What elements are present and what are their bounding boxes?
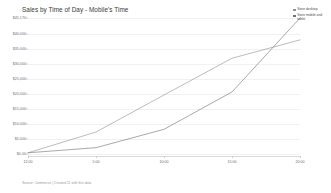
series-line xyxy=(28,18,300,153)
y-axis-tick-mark xyxy=(26,33,28,34)
gridline xyxy=(28,154,300,155)
series-line xyxy=(28,40,300,153)
x-axis-tick-labels: 12:005:0010:0015:0020:00 xyxy=(28,160,300,168)
y-axis-tick-label: $35,000 xyxy=(13,47,26,51)
legend-label: Store desktop xyxy=(297,8,317,12)
x-axis-tick-mark xyxy=(28,156,29,158)
y-axis-tick-mark xyxy=(26,93,28,94)
x-axis-tick-label: 5:00 xyxy=(92,160,99,165)
y-axis-tick-label: $20,000 xyxy=(13,92,26,96)
y-axis-tick-mark xyxy=(26,78,28,79)
x-axis-tick-label: 20:00 xyxy=(295,160,304,165)
x-axis-tick-label: 12:00 xyxy=(23,160,32,165)
legend-label: Store mobile and tablet xyxy=(297,14,327,21)
series-layer xyxy=(28,18,300,154)
legend-swatch-icon xyxy=(293,15,296,18)
y-axis-tick-mark xyxy=(26,48,28,49)
y-axis-tick-label: $0.00 xyxy=(17,152,26,156)
y-axis-tick-mark xyxy=(26,18,28,19)
chart-footnote: Source: Commerce | Created 11 with this … xyxy=(22,181,91,185)
y-axis-tick-label: $25,000 xyxy=(13,77,26,81)
y-axis-tick-label: $40,000 xyxy=(13,32,26,36)
x-axis-tick-mark xyxy=(164,156,165,158)
y-axis-tick-mark xyxy=(26,63,28,64)
y-axis-tick-mark xyxy=(26,138,28,139)
x-axis-tick-mark xyxy=(96,156,97,158)
y-axis-tick-mark xyxy=(26,154,28,155)
y-axis-tick-label: $15,000 xyxy=(13,107,26,111)
x-axis-tick-mark xyxy=(300,156,301,158)
x-axis-tick-mark xyxy=(232,156,233,158)
y-axis-tick-mark xyxy=(26,108,28,109)
y-axis-tick-label: $10,000 xyxy=(13,122,26,126)
y-axis-tick-labels: $0.00$5,000$10,000$15,000$20,000$25,000$… xyxy=(0,18,26,154)
x-axis-tick-label: 15:00 xyxy=(227,160,236,165)
plot-area xyxy=(28,18,300,154)
legend-item[interactable]: Store desktop xyxy=(293,8,318,12)
chart-title: Sales by Time of Day - Mobile's Time xyxy=(22,6,128,14)
x-axis-tick-label: 10:00 xyxy=(159,160,168,165)
y-axis-tick-mark xyxy=(26,123,28,124)
chart-legend: Store desktopStore mobile and tablet xyxy=(291,7,329,23)
y-axis-tick-label: $5,000 xyxy=(15,137,26,141)
legend-swatch-icon xyxy=(293,9,296,12)
y-axis-tick-label: $30,000 xyxy=(13,62,26,66)
legend-item[interactable]: Store mobile and tablet xyxy=(293,14,327,21)
chart-card: Sales by Time of Day - Mobile's Time $0.… xyxy=(0,0,331,193)
y-axis-tick-label: $45,170 xyxy=(13,16,26,20)
